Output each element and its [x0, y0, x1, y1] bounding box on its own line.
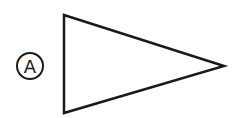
label-text: A: [24, 56, 37, 77]
diagram-canvas: A: [0, 0, 243, 118]
triangle-shape: [64, 15, 224, 113]
circled-label: A: [17, 53, 43, 79]
